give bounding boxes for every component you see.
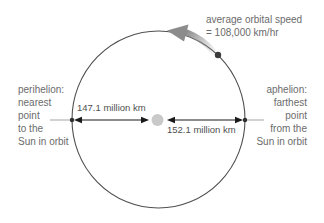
average-speed-line2: = 108,000 km/hr	[206, 26, 302, 39]
perihelion-line4: to the	[18, 122, 69, 135]
aphelion-line2: farthest	[256, 96, 307, 109]
aphelion-line4: from the	[256, 122, 307, 135]
perihelion-line3: point	[18, 109, 69, 122]
aphelion-line3: point	[256, 109, 307, 122]
perihelion-line2: nearest	[18, 96, 69, 109]
perihelion-arrowhead-left-icon	[74, 117, 82, 123]
aphelion-arrowhead-right-icon	[235, 117, 243, 123]
earth-orbit-diagram: average orbital speed = 108,000 km/hr pe…	[0, 0, 324, 223]
sun-icon	[152, 114, 164, 126]
perihelion-line5: Sun in orbit	[18, 135, 69, 148]
orbital-direction-arrowhead-icon	[167, 25, 189, 42]
average-speed-label: average orbital speed = 108,000 km/hr	[206, 13, 302, 39]
perihelion-label: perihelion: nearest point to the Sun in …	[18, 83, 69, 148]
earth-dot	[215, 52, 221, 58]
average-speed-line1: average orbital speed	[206, 13, 302, 26]
aphelion-point	[243, 118, 247, 122]
aphelion-label: aphelion: farthest point from the Sun in…	[256, 83, 307, 148]
perihelion-arrowhead-right-icon	[141, 117, 149, 123]
perihelion-line1: perihelion:	[18, 83, 69, 96]
perihelion-distance-label: 147.1 million km	[77, 101, 146, 114]
aphelion-distance-label: 152.1 million km	[167, 123, 236, 136]
aphelion-line5: Sun in orbit	[256, 135, 307, 148]
aphelion-line1: aphelion:	[256, 83, 307, 96]
perihelion-point	[70, 118, 74, 122]
